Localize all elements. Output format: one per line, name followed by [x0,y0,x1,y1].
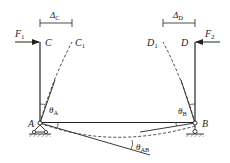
diagram-canvas: F1 F2 C C1 D D1 A B ΔC ΔD θA θB θAB [0,0,230,163]
force-F2: F2 [196,28,220,42]
force-F1: F1 [14,28,39,42]
original-frame [40,42,195,123]
node-label-D1: D1 [146,37,158,50]
chord-AB-rotated [40,123,150,155]
chord-lines [40,80,195,155]
angle-label-theta-A: θA [49,105,58,116]
chord-B-tangent [140,123,195,132]
node-label-C1: C1 [75,37,86,50]
node-label-D: D [180,37,189,48]
arc-theta-B2 [176,123,177,126]
angle-label-theta-B: θB [178,106,187,117]
node-label-C: C [45,37,52,48]
dimension-label-delta-D: ΔD [172,10,183,21]
chord-A-C1 [40,80,55,123]
force-label-F1: F1 [14,28,25,41]
arc-theta-A2 [57,123,58,128]
dimension-label-delta-C: ΔC [49,10,60,21]
node-label-B: B [202,118,208,129]
node-label-A: A [27,118,35,129]
arc-theta-AB [131,140,133,149]
angle-label-theta-AB: θAB [136,142,150,153]
arc-theta-A [40,104,46,105]
frame-diagram: F1 F2 C C1 D D1 A B ΔC ΔD θA θB θAB [0,0,230,163]
force-label-F2: F2 [204,28,215,41]
arc-theta-B [189,104,195,105]
